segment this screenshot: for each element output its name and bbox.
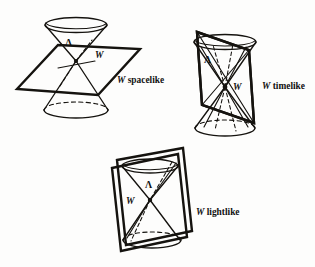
cone-bottom-rim-front [44,110,108,118]
cone-vertex-timelike [223,85,228,90]
cone-label-timelike: Λ [204,54,212,65]
figure-container: Λ W W spacelike [0,0,315,267]
caption-kind-lightlike: lightlike [204,207,239,217]
caption-timelike: W timelike [262,81,305,91]
panel-spacelike: Λ W W spacelike [17,18,164,119]
cone-label-lightlike: Λ [145,179,153,190]
cone-bottom-rim-front-timelike [195,128,255,136]
plane-lightlike-front [112,154,187,251]
panel-timelike: Λ W W timelike [194,32,305,136]
caption-kind-timelike: timelike [270,81,305,91]
plane-spacelike [17,45,140,95]
cone-vertex [74,59,78,63]
caption-kind-spacelike: spacelike [125,75,164,85]
plane-label-lightlike: W [126,196,135,206]
cone-vertex-lightlike [148,198,152,202]
cone-bottom-rim-back [44,102,108,110]
light-cone-diagram: Λ W W spacelike [0,0,315,267]
panel-lightlike: Λ W W lightlike [112,148,240,251]
plane-label-spacelike: W [95,50,104,60]
caption-spacelike: W spacelike [117,75,164,85]
cone-top-rim-inner [46,23,107,29]
plane-label-timelike: W [233,82,242,92]
cone-top-rim [45,18,107,33]
caption-lightlike: W lightlike [196,207,240,217]
cone-label-spacelike: Λ [65,37,73,48]
